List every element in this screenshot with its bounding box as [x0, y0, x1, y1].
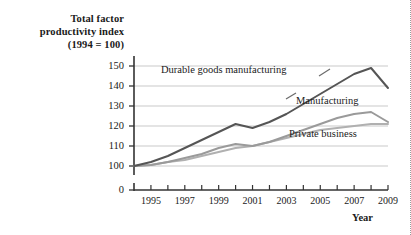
x-axis-title: Year: [352, 212, 373, 223]
chart-container: Total factor productivity index (1994 = …: [0, 0, 411, 235]
y-tick-label-150: 150: [98, 60, 124, 71]
y-tick-label-0: 0: [98, 184, 124, 195]
series-label-private-business: Private business: [289, 128, 357, 140]
series-label-manufacturing: Manufacturing: [296, 95, 358, 107]
data-series: [134, 68, 388, 166]
y-tick-label-120: 120: [98, 120, 124, 131]
y-tick-label-140: 140: [98, 80, 124, 91]
y-tick-label-110: 110: [98, 140, 124, 151]
y-tick-label-130: 130: [98, 100, 124, 111]
series-label-durable-goods-manufacturing: Durable goods manufacturing: [161, 64, 286, 76]
y-tick-label-100: 100: [98, 160, 124, 171]
x-tick-label-2009: 2009: [368, 195, 408, 206]
